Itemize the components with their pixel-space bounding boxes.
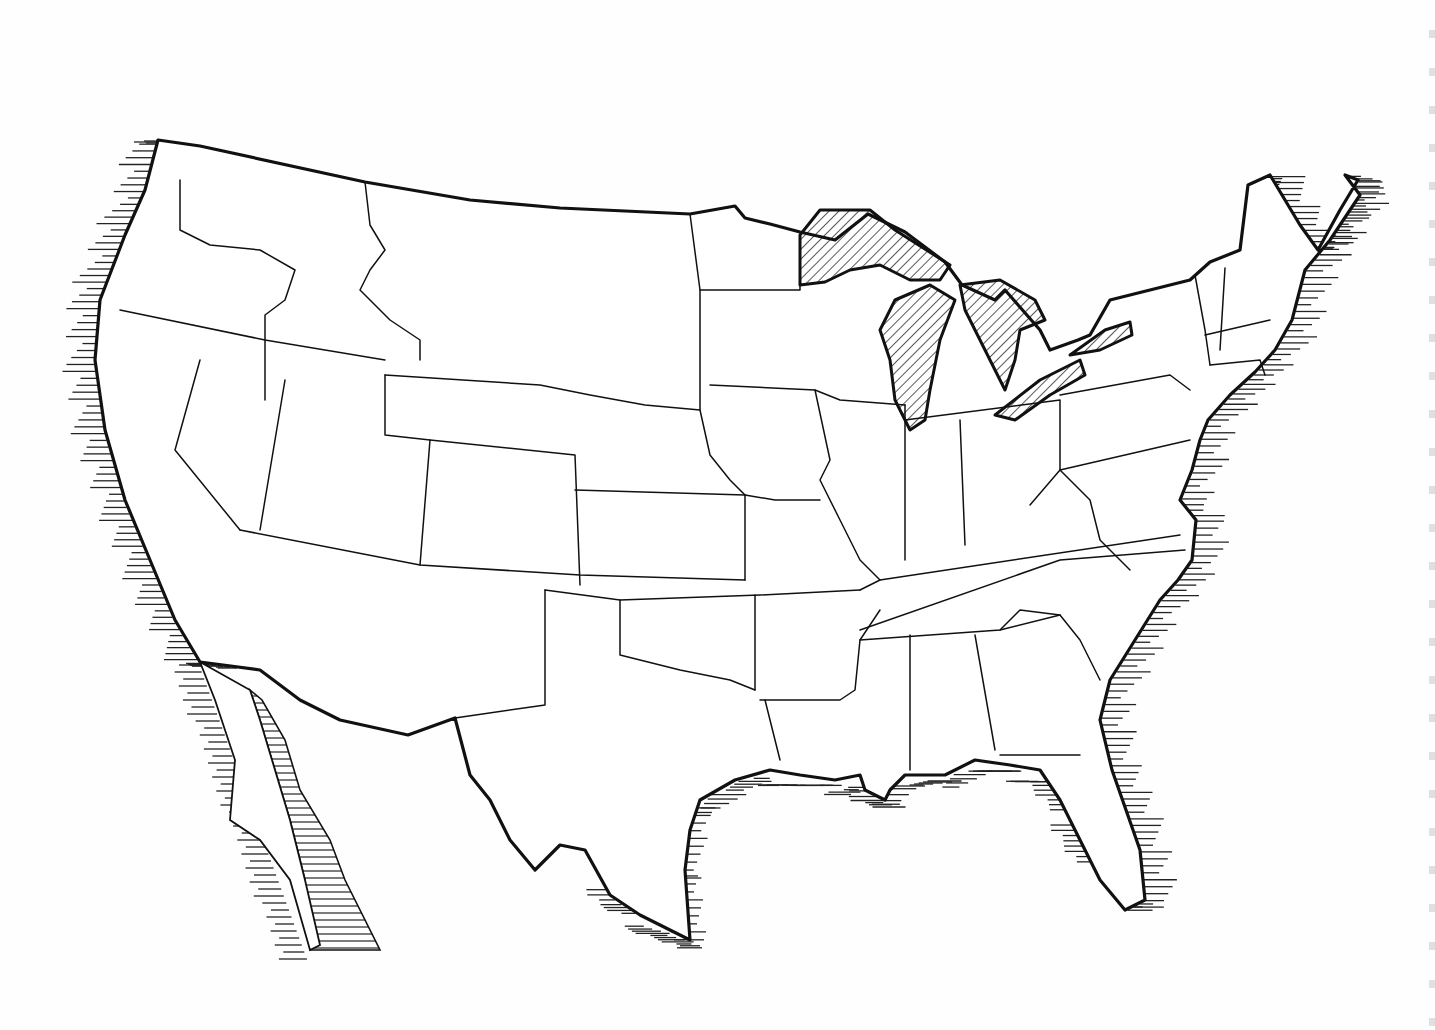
scan-edge-artifact xyxy=(1429,0,1435,1030)
us-outline-map xyxy=(0,0,1435,1030)
map-canvas xyxy=(0,0,1435,1030)
